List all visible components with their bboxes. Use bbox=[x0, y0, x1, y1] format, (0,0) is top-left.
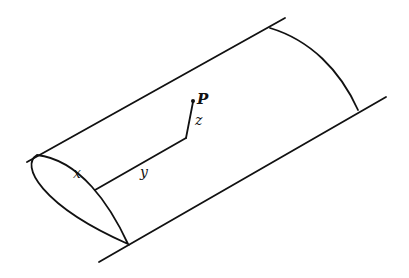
label-y: y bbox=[139, 164, 149, 180]
point-p-marker bbox=[191, 99, 195, 103]
upper-span-line bbox=[27, 18, 285, 162]
wing-diagram: x y z P bbox=[0, 0, 409, 278]
label-z: z bbox=[194, 112, 203, 128]
z-coordinate-line bbox=[186, 102, 193, 138]
label-x: x bbox=[73, 165, 81, 181]
far-end-arc bbox=[270, 28, 358, 110]
label-p: P bbox=[196, 90, 209, 108]
